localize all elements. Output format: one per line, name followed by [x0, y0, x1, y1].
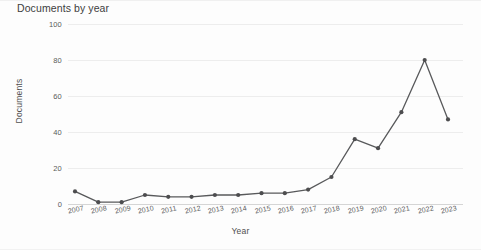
- data-point-marker: [399, 110, 403, 114]
- x-tick-label: 2013: [207, 204, 224, 214]
- data-point-marker: [189, 195, 193, 199]
- top-divider: [0, 0, 481, 1]
- x-tick-label: 2009: [114, 204, 131, 214]
- data-point-marker: [283, 191, 287, 195]
- data-point-marker: [423, 58, 427, 62]
- plot-area: 020406080100 200720082009201020112012201…: [68, 24, 463, 204]
- y-tick-label: 40: [53, 128, 62, 137]
- x-tick-label: 2008: [90, 204, 107, 214]
- series-line: [75, 60, 448, 202]
- x-tick-label: 2016: [277, 204, 294, 214]
- data-point-marker: [213, 193, 217, 197]
- y-tick-label: 100: [49, 20, 62, 29]
- x-tick-label: 2021: [394, 204, 411, 214]
- x-tick-label: 2012: [184, 204, 201, 214]
- y-tick-label: 20: [53, 164, 62, 173]
- x-tick-label: 2007: [67, 204, 84, 214]
- x-tick-label: 2020: [370, 204, 387, 214]
- chart-container: Documents by year Documents 020406080100…: [0, 0, 481, 250]
- data-point-marker: [236, 193, 240, 197]
- data-point-marker: [446, 117, 450, 121]
- data-point-marker: [306, 188, 310, 192]
- x-tick-label: 2014: [230, 204, 247, 214]
- data-point-marker: [96, 200, 100, 204]
- x-tick-label: 2015: [254, 204, 271, 214]
- data-point-marker: [376, 146, 380, 150]
- data-point-marker: [259, 191, 263, 195]
- x-tick-label: 2010: [137, 204, 154, 214]
- x-tick-label: 2011: [161, 204, 178, 214]
- x-tick-label: 2023: [440, 204, 457, 214]
- line-series: [68, 24, 463, 204]
- data-point-marker: [73, 189, 77, 193]
- data-point-marker: [166, 195, 170, 199]
- x-tick-label: 2019: [347, 204, 364, 214]
- data-point-marker: [353, 137, 357, 141]
- x-axis-title: Year: [0, 226, 481, 236]
- y-tick-label: 80: [53, 56, 62, 65]
- x-tick-label: 2018: [324, 204, 341, 214]
- chart-title: Documents by year: [17, 2, 109, 14]
- y-axis-title: Documents: [14, 66, 24, 136]
- data-point-marker: [143, 193, 147, 197]
- y-tick-label: 60: [53, 92, 62, 101]
- data-point-marker: [120, 200, 124, 204]
- y-tick-label: 0: [58, 200, 62, 209]
- x-tick-label: 2022: [417, 204, 434, 214]
- x-tick-label: 2017: [300, 204, 317, 214]
- data-point-marker: [329, 175, 333, 179]
